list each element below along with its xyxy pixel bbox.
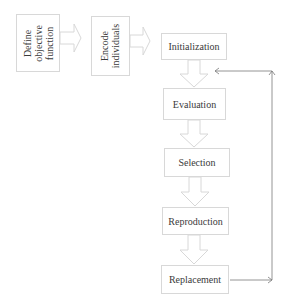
down-arrow-3 (181, 177, 209, 206)
step-selection-label: Selection (178, 157, 215, 168)
step-evaluation: Evaluation (163, 88, 226, 120)
block-arrow-2 (130, 27, 150, 55)
down-arrow-1 (180, 60, 208, 87)
step-initialization: Initialization (161, 33, 227, 60)
step-encode-label: Encode individuals (100, 24, 122, 68)
down-arrow-2 (180, 120, 208, 147)
step-replacement-label: Replacement (169, 274, 221, 285)
step-reproduction-label: Reproduction (168, 216, 222, 227)
step-selection: Selection (164, 148, 230, 177)
step-reproduction: Reproduction (162, 207, 229, 235)
step-define-objective-function: Define objective function (16, 14, 60, 72)
step-encode-individuals: Encode individuals (91, 16, 130, 76)
step-define-label: Define objective function (22, 25, 55, 62)
block-arrow-1 (60, 24, 81, 52)
step-replacement: Replacement (161, 265, 229, 294)
step-initialization-label: Initialization (168, 41, 219, 52)
down-arrow-4 (180, 235, 208, 264)
step-evaluation-label: Evaluation (173, 99, 216, 110)
